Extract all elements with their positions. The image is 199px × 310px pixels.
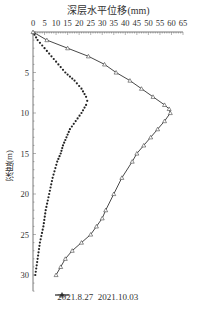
dot-marker-icon bbox=[64, 71, 66, 73]
dot-marker-icon bbox=[82, 90, 84, 92]
dot-marker-icon bbox=[86, 100, 88, 102]
x-tick-label: 40 bbox=[121, 18, 130, 28]
dot-marker-icon bbox=[83, 107, 85, 109]
dot-marker-icon bbox=[55, 164, 57, 166]
dot-marker-icon bbox=[75, 120, 77, 122]
dot-marker-icon bbox=[82, 109, 84, 111]
dot-marker-icon bbox=[41, 44, 43, 46]
dot-marker-icon bbox=[33, 34, 35, 36]
dot-marker-icon bbox=[35, 36, 37, 38]
dot-marker-icon bbox=[37, 258, 39, 260]
dot-marker-icon bbox=[57, 158, 59, 160]
dot-marker-icon bbox=[47, 199, 49, 201]
y-tick-label: 5 bbox=[25, 68, 29, 78]
dot-marker-icon bbox=[62, 144, 64, 146]
x-tick-label: 0 bbox=[31, 18, 35, 28]
dot-marker-icon bbox=[39, 242, 41, 244]
dot-marker-icon bbox=[73, 123, 75, 125]
x-tick-label: 50 bbox=[144, 18, 153, 28]
dot-marker-icon bbox=[39, 42, 41, 44]
dot-marker-icon bbox=[34, 274, 36, 276]
dot-marker-icon bbox=[37, 39, 39, 41]
plot-area: 0510152025303540455055606551015202530 bbox=[0, 0, 199, 310]
dot-marker-icon bbox=[43, 47, 45, 49]
dot-marker-icon bbox=[50, 183, 52, 185]
dot-marker-icon bbox=[61, 147, 63, 149]
legend: 2021.8.27 2021.10.03 bbox=[55, 291, 138, 302]
dot-marker-icon bbox=[46, 50, 48, 52]
x-tick-label: 65 bbox=[179, 18, 188, 28]
dot-marker-icon bbox=[71, 125, 73, 127]
dot-marker-icon bbox=[40, 238, 42, 240]
y-tick-label: 25 bbox=[21, 230, 30, 240]
y-tick-label: 15 bbox=[21, 149, 30, 159]
dot-marker-icon bbox=[58, 155, 60, 157]
dot-marker-icon bbox=[40, 235, 42, 237]
triangle-marker-icon bbox=[128, 79, 132, 83]
dot-marker-icon bbox=[56, 161, 58, 163]
x-tick-label: 35 bbox=[110, 18, 119, 28]
y-tick-label: 10 bbox=[21, 108, 30, 118]
dot-marker-icon bbox=[37, 251, 39, 253]
triangle-marker-icon bbox=[112, 192, 116, 196]
dot-marker-icon bbox=[37, 254, 39, 256]
dot-marker-icon bbox=[42, 225, 44, 227]
dot-marker-icon bbox=[80, 112, 82, 114]
dot-marker-icon bbox=[76, 82, 78, 84]
dot-marker-icon bbox=[46, 203, 48, 205]
dot-marker-icon bbox=[45, 206, 47, 208]
triangle-marker-icon bbox=[130, 160, 134, 164]
dot-marker-icon bbox=[85, 96, 87, 98]
dot-marker-icon bbox=[69, 128, 71, 130]
dot-marker-icon bbox=[35, 267, 37, 269]
dot-marker-icon bbox=[35, 271, 37, 273]
x-tick-label: 60 bbox=[167, 18, 176, 28]
dot-marker-icon bbox=[60, 150, 62, 152]
dot-marker-icon bbox=[62, 69, 64, 71]
dot-marker-icon bbox=[80, 88, 82, 90]
dot-marker-icon bbox=[47, 196, 49, 198]
dot-marker-icon bbox=[64, 139, 66, 141]
dot-marker-icon bbox=[78, 115, 80, 117]
y-tick-label: 30 bbox=[21, 270, 30, 280]
x-tick-label: 30 bbox=[98, 18, 107, 28]
dot-marker-icon bbox=[83, 93, 85, 95]
dot-marker-icon bbox=[36, 261, 38, 263]
dot-marker-icon bbox=[60, 66, 62, 68]
legend-label-series-2: 2021.10.03 bbox=[98, 292, 139, 302]
x-tick-label: 5 bbox=[42, 18, 46, 28]
dot-marker-icon bbox=[68, 131, 70, 133]
triangle-marker-icon bbox=[100, 216, 104, 220]
dot-marker-icon bbox=[48, 53, 50, 55]
dot-marker-icon bbox=[78, 85, 80, 87]
dot-marker-icon bbox=[69, 75, 71, 77]
dot-marker-icon bbox=[41, 232, 43, 234]
x-tick-label: 20 bbox=[75, 18, 84, 28]
dot-marker-icon bbox=[71, 77, 73, 79]
dot-marker-icon bbox=[49, 186, 51, 188]
x-tick-label: 10 bbox=[52, 18, 61, 28]
dot-marker-icon bbox=[57, 63, 59, 65]
triangle-marker-icon bbox=[59, 265, 63, 269]
dot-marker-icon bbox=[50, 55, 52, 57]
dot-marker-icon bbox=[44, 216, 46, 218]
series-line-2 bbox=[33, 32, 170, 275]
triangle-marker-icon bbox=[45, 38, 49, 42]
dot-marker-icon bbox=[52, 173, 54, 175]
dot-marker-icon bbox=[54, 167, 56, 169]
dot-marker-icon bbox=[77, 117, 79, 119]
dot-marker-icon bbox=[45, 209, 47, 211]
dot-marker-icon bbox=[43, 222, 45, 224]
dot-marker-icon bbox=[38, 248, 40, 250]
x-tick-label: 25 bbox=[86, 18, 95, 28]
dot-marker-icon bbox=[85, 104, 87, 106]
x-tick-label: 15 bbox=[63, 18, 72, 28]
dot-marker-icon bbox=[48, 193, 50, 195]
dot-marker-icon bbox=[53, 170, 55, 172]
x-tick-label: 45 bbox=[133, 18, 142, 28]
triangle-marker-icon bbox=[168, 111, 172, 115]
dot-marker-icon bbox=[44, 212, 46, 214]
triangle-marker-icon bbox=[104, 208, 108, 212]
dot-marker-icon bbox=[60, 152, 62, 154]
dot-marker-icon bbox=[63, 142, 65, 144]
